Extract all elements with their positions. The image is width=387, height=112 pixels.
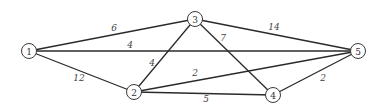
edge-weight-2-3: 4 [148,58,155,68]
edge-2-3 [134,19,195,92]
node-label: 2 [131,88,137,98]
node-3: 3 [188,12,203,27]
node-label: 4 [270,91,276,101]
edge-weight-1-5: 4 [126,40,133,50]
node-1: 1 [22,44,37,59]
edge-weight-1-3: 6 [111,23,117,33]
node-label: 1 [26,47,32,57]
edge-1-2 [29,51,134,92]
edge-weight-2-4: 5 [203,94,209,104]
node-label: 5 [355,47,361,57]
edge-weight-2-5: 2 [191,68,198,78]
node-label: 3 [192,15,198,25]
edge-2-5 [134,51,358,92]
edge-weights: 64124147252 [73,22,326,104]
node-4: 4 [266,88,281,103]
edge-weight-1-2: 12 [73,73,85,83]
weighted-graph-diagram: 64124147252 12345 [0,0,387,112]
nodes: 12345 [22,12,366,103]
edge-weight-3-5: 14 [268,22,280,32]
node-2: 2 [127,85,142,100]
edge-4-5 [273,51,358,95]
node-5: 5 [351,44,366,59]
edges [29,19,358,95]
edge-weight-4-5: 2 [319,73,326,83]
edge-3-4 [195,19,273,95]
edge-weight-3-4: 7 [220,33,226,43]
